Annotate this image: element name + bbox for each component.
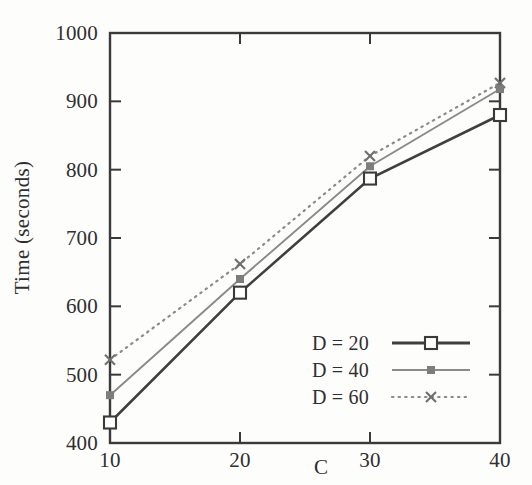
y-tick-label-600: 600 [20, 296, 98, 317]
series-d-20-line [110, 115, 500, 423]
legend-label-d-60: D = 60 [312, 386, 369, 409]
y-tick-label-800: 800 [20, 159, 98, 180]
y-tick-label-1000: 1000 [20, 23, 98, 44]
y-tick-label-500: 500 [20, 364, 98, 385]
chart-figure: 400 500 600 700 800 900 1000 10 20 30 40… [0, 0, 532, 485]
y-tick-label-700: 700 [20, 228, 98, 249]
legend-samples [392, 337, 470, 402]
series-d-40 [106, 85, 504, 399]
y-axis-ticks [110, 101, 121, 374]
series-d-40-line [110, 89, 500, 395]
legend-label-d-20: D = 20 [312, 332, 369, 355]
series-d-20-markers [104, 109, 506, 429]
y-axis-ticks-right [489, 101, 500, 374]
y-tick-label-900: 900 [20, 91, 98, 112]
x-axis-ticks-top [240, 33, 370, 44]
plot-frame [110, 33, 500, 443]
legend-marker-d-20 [425, 337, 437, 349]
x-axis-ticks [240, 432, 370, 443]
series-d-20 [104, 109, 506, 429]
legend-marker-d-40 [427, 366, 435, 374]
y-tick-label-400: 400 [20, 433, 98, 454]
legend-label-d-40: D = 40 [312, 359, 369, 382]
x-axis-title: C [55, 455, 532, 480]
series-d-40-markers [106, 85, 504, 399]
